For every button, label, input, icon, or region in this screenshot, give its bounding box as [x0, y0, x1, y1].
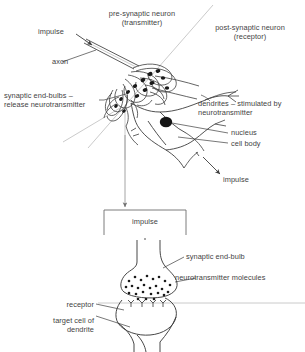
- callout-guide-lines: [63, 5, 213, 160]
- label-impulse-out: impulse: [223, 175, 249, 184]
- label-neurotransmitter-molecules: neurotransmitter molecules: [175, 273, 265, 282]
- label-post-synaptic-neuron: post-synaptic neuron (receptor): [196, 23, 304, 42]
- label-impulse-detail: impulse: [115, 217, 175, 226]
- label-dendrites: dendrites – stimulated by neurotransmitt…: [198, 99, 281, 118]
- label-impulse-in: impulse: [38, 27, 64, 36]
- synapse-diagram: pre-synaptic neuron (transmitter) post-s…: [0, 0, 305, 352]
- lower-dendrite-stub: [126, 126, 139, 145]
- label-synaptic-end-bulb: synaptic end-bulb: [186, 252, 245, 261]
- label-axon: axon: [52, 57, 68, 66]
- target-cell-dendrite: [116, 298, 176, 352]
- label-pre-synaptic-neuron: pre-synaptic neuron (transmitter): [82, 9, 202, 28]
- label-target-cell-of-dendrite: target cell of dendrite: [18, 316, 94, 335]
- label-synaptic-end-bulbs: synaptic end-bulbs – release neurotransm…: [4, 91, 85, 110]
- label-nucleus: nucleus: [231, 128, 257, 137]
- synaptic-end-bulb-shape: [121, 240, 177, 298]
- nucleus: [160, 117, 172, 127]
- axon: [84, 39, 139, 69]
- impulse-out: [196, 152, 220, 174]
- label-cell-body: cell body: [231, 139, 261, 148]
- synaptic-end-bulb-dots: [113, 68, 169, 113]
- label-receptor: receptor: [26, 300, 94, 309]
- receptor-shapes: [128, 300, 166, 307]
